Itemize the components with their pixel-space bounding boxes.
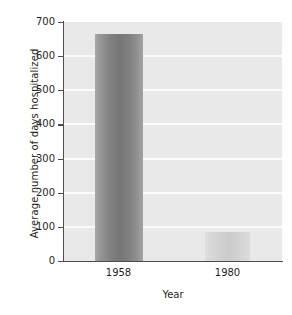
bar-chart-figure: Average number of days hospitalized 0100… xyxy=(0,0,292,315)
y-tick-mark xyxy=(58,124,63,125)
bar-1980 xyxy=(205,232,250,261)
x-tick-label: 1958 xyxy=(89,267,149,278)
y-tick-mark xyxy=(58,261,63,262)
y-tick-label: 200 xyxy=(15,187,55,198)
y-tick-mark xyxy=(58,159,63,160)
y-tick-label: 400 xyxy=(15,118,55,129)
x-axis-spine xyxy=(63,261,283,262)
y-tick-label: 300 xyxy=(15,153,55,164)
y-tick-mark xyxy=(58,193,63,194)
y-tick-label: 100 xyxy=(15,221,55,232)
x-tick-label: 1980 xyxy=(198,267,258,278)
y-tick-label: 500 xyxy=(15,84,55,95)
y-tick-mark xyxy=(58,56,63,57)
y-tick-mark xyxy=(58,90,63,91)
y-tick-label: 700 xyxy=(15,16,55,27)
bar-1958 xyxy=(95,34,143,261)
x-axis-title: Year xyxy=(64,289,282,300)
y-tick-label: 600 xyxy=(15,50,55,61)
y-tick-label: 0 xyxy=(15,255,55,266)
plot-area xyxy=(64,22,282,261)
y-tick-mark xyxy=(58,22,63,23)
y-tick-mark xyxy=(58,227,63,228)
